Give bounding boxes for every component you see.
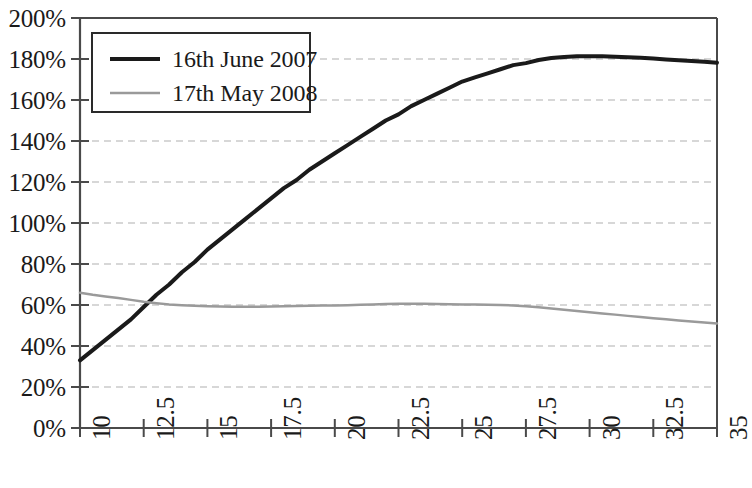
y-tick-label: 100% (8, 211, 66, 236)
y-tick-label: 180% (8, 47, 66, 72)
y-tick-label: 20% (21, 375, 66, 400)
y-tick-label: 80% (21, 252, 66, 277)
x-tick-label: 20 (344, 415, 369, 440)
series-line-2 (80, 293, 717, 324)
x-tick-label: 10 (89, 415, 114, 440)
legend-label-2: 17th May 2008 (172, 81, 317, 105)
y-tick-label: 120% (8, 170, 66, 195)
y-tick-label: 200% (8, 6, 66, 31)
y-tick-label: 60% (21, 293, 66, 318)
x-tick-label: 12.5 (153, 397, 178, 440)
x-tick-label: 17.5 (280, 397, 305, 440)
x-tick-label: 15 (216, 415, 241, 440)
legend-label-1: 16th June 2007 (172, 47, 317, 71)
y-tick-label: 160% (8, 88, 66, 113)
y-tick-label: 0% (33, 416, 66, 441)
y-tick-label: 40% (21, 334, 66, 359)
x-tick-label: 30 (599, 415, 624, 440)
x-tick-label: 22.5 (408, 397, 433, 440)
x-tick-label: 32.5 (662, 397, 687, 440)
x-tick-label: 27.5 (535, 397, 560, 440)
y-tick-label: 140% (8, 129, 66, 154)
x-tick-label: 25 (471, 415, 496, 440)
x-tick-label: 35 (726, 415, 751, 440)
